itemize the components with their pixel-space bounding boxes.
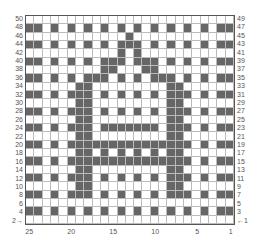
- chart-cell: [134, 116, 142, 124]
- row-label-right: 7: [237, 191, 253, 199]
- chart-cell: [159, 174, 167, 182]
- chart-cell: [226, 91, 234, 99]
- chart-cell: [68, 83, 76, 91]
- chart-cell: [192, 116, 200, 124]
- chart-cell: [59, 216, 67, 224]
- chart-cell: [217, 16, 225, 24]
- chart-cell: [217, 182, 225, 190]
- chart-cell: [151, 91, 159, 99]
- chart-cell: [226, 174, 234, 182]
- row-label-left: 48: [2, 23, 23, 31]
- chart-cell: [34, 83, 42, 91]
- chart-cell: [201, 91, 209, 99]
- chart-cell: [59, 91, 67, 99]
- row-label-left: 12: [2, 175, 23, 183]
- chart-cell: [201, 182, 209, 190]
- chart-cell: [93, 141, 101, 149]
- chart-cell: [34, 99, 42, 107]
- chart-cell: [159, 99, 167, 107]
- chart-cell: [184, 116, 192, 124]
- chart-cell: [26, 191, 34, 199]
- chart-cell: [59, 49, 67, 57]
- chart-cell: [134, 24, 142, 32]
- chart-cell: [118, 149, 126, 157]
- chart-cell: [76, 58, 84, 66]
- chart-cell: [34, 199, 42, 207]
- chart-cell: [184, 58, 192, 66]
- chart-cell: [101, 116, 109, 124]
- chart-cell: [93, 16, 101, 24]
- chart-cell: [43, 58, 51, 66]
- row-label-left: 2→: [2, 217, 23, 225]
- chart-cell: [101, 91, 109, 99]
- chart-cell: [76, 91, 84, 99]
- chart-cell: [192, 74, 200, 82]
- chart-cell: [26, 157, 34, 165]
- chart-cell: [151, 174, 159, 182]
- chart-cell: [184, 174, 192, 182]
- chart-cell: [51, 99, 59, 107]
- chart-cell: [84, 49, 92, 57]
- chart-cell: [209, 216, 217, 224]
- chart-cell: [167, 207, 175, 215]
- chart-cell: [26, 182, 34, 190]
- chart-cell: [201, 124, 209, 132]
- chart-cell: [184, 166, 192, 174]
- chart-cell: [134, 191, 142, 199]
- chart-cell: [192, 174, 200, 182]
- chart-cell: [101, 74, 109, 82]
- chart-cell: [167, 24, 175, 32]
- chart-cell: [68, 49, 76, 57]
- chart-cell: [159, 83, 167, 91]
- chart-cell: [59, 199, 67, 207]
- chart-cell: [84, 216, 92, 224]
- chart-cell: [176, 66, 184, 74]
- chart-cell: [51, 49, 59, 57]
- chart-cell: [217, 74, 225, 82]
- chart-cell: [226, 191, 234, 199]
- chart-cell: [126, 99, 134, 107]
- chart-cell: [51, 216, 59, 224]
- chart-cell: [201, 99, 209, 107]
- chart-cell: [142, 166, 150, 174]
- chart-cell: [167, 99, 175, 107]
- chart-cell: [159, 166, 167, 174]
- chart-cell: [167, 58, 175, 66]
- chart-cell: [167, 199, 175, 207]
- chart-cell: [151, 141, 159, 149]
- chart-cell: [226, 124, 234, 132]
- row-label-right: 29: [237, 99, 253, 107]
- chart-cell: [109, 174, 117, 182]
- row-label-right: 25: [237, 116, 253, 124]
- chart-cell: [217, 157, 225, 165]
- chart-cell: [93, 49, 101, 57]
- chart-cell: [134, 66, 142, 74]
- row-label-right: 49: [237, 15, 253, 23]
- chart-cell: [68, 58, 76, 66]
- chart-cell: [101, 157, 109, 165]
- chart-cell: [76, 149, 84, 157]
- chart-cell: [118, 199, 126, 207]
- chart-cell: [226, 33, 234, 41]
- row-label-left: 24: [2, 124, 23, 132]
- chart-cell: [159, 182, 167, 190]
- chart-cell: [226, 41, 234, 49]
- chart-cell: [134, 157, 142, 165]
- chart-cell: [176, 182, 184, 190]
- chart-cell: [26, 16, 34, 24]
- chart-cell: [217, 216, 225, 224]
- chart-cell: [209, 166, 217, 174]
- chart-cell: [142, 157, 150, 165]
- chart-cell: [201, 58, 209, 66]
- chart-cell: [51, 33, 59, 41]
- chart-cell: [76, 191, 84, 199]
- chart-cell: [26, 141, 34, 149]
- chart-cell: [101, 199, 109, 207]
- chart-cell: [43, 74, 51, 82]
- chart-cell: [51, 182, 59, 190]
- chart-cell: [184, 33, 192, 41]
- chart-cell: [43, 174, 51, 182]
- chart-cell: [84, 199, 92, 207]
- chart-cell: [59, 132, 67, 140]
- chart-cell: [43, 166, 51, 174]
